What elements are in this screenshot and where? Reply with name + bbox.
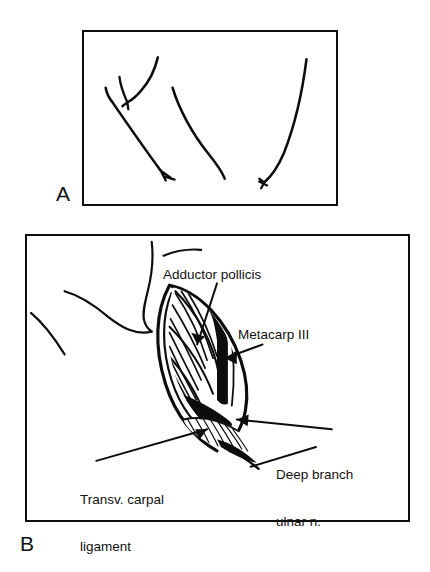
hand-contour-palm-upper — [65, 291, 152, 332]
label-adductor-pollicis: Adductor pollicis — [163, 267, 261, 283]
contour-line-upper — [127, 57, 158, 102]
label-metacarp-iii: Metacarp III — [238, 327, 309, 343]
contour-line-central — [173, 88, 225, 179]
label-deep-branch-ulnar-line-2: ulnar n. — [276, 514, 353, 530]
contour-hook-upper — [119, 77, 128, 109]
panel-a-letter: A — [56, 183, 71, 204]
hand-contour-thumb-edge — [144, 242, 153, 319]
leader-line-deep-branch-ulnar — [237, 419, 332, 429]
panel-a-frame — [82, 30, 338, 206]
contour-fork-left — [161, 171, 175, 181]
contour-line-right — [264, 59, 306, 182]
hand-contour-palm-lower — [31, 313, 65, 354]
label-transv-carpal-ligament-line-2: ligament — [80, 539, 164, 555]
panel-b-letter: B — [20, 533, 35, 554]
hand-contour-thumb-crease — [144, 319, 152, 332]
label-transv-carpal-ligament: Transv. carpal ligament — [80, 461, 164, 572]
label-transv-carpal-ligament-line-1: Transv. carpal — [80, 492, 164, 508]
panel-a-drawing — [84, 32, 336, 204]
figure-container: A — [0, 0, 430, 572]
label-deep-branch-ulnar: Deep branch ulnar n. — [276, 436, 353, 560]
contour-line-left — [106, 88, 161, 171]
hand-contour-web-top — [164, 250, 202, 256]
leader-line-transv-carpal-ligament — [96, 429, 207, 461]
label-deep-branch-ulnar-line-1: Deep branch — [276, 467, 353, 483]
